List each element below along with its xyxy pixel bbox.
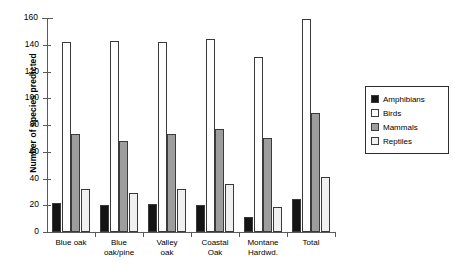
bar (254, 57, 263, 232)
legend-item[interactable]: Reptiles (371, 134, 444, 148)
x-axis-tick (239, 232, 240, 237)
bar-group (239, 18, 287, 232)
legend-item-label: Reptiles (383, 137, 412, 146)
bar (302, 19, 311, 232)
legend-item[interactable]: Amphibians (371, 92, 444, 106)
bar-group (95, 18, 143, 232)
y-axis-tick: 0 (43, 232, 51, 233)
bar (52, 203, 61, 232)
legend-item-label: Birds (383, 109, 401, 118)
bar-group (191, 18, 239, 232)
y-axis-tick-label: 20 (30, 199, 39, 209)
x-axis-label-line: Hardwd. (231, 248, 295, 258)
bar (148, 204, 157, 232)
bar-chart: Number of species predicted 020406080100… (0, 0, 455, 276)
x-axis-labels: Blue oakBlueoak/pineValleyoakCoastalOakM… (47, 238, 335, 274)
legend-swatch-icon (371, 123, 379, 131)
y-axis-tick-label: 0 (34, 226, 39, 236)
x-axis-tick (95, 232, 96, 237)
legend-swatch-icon (371, 95, 379, 103)
y-axis-tick-label: 80 (30, 119, 39, 129)
bar (158, 42, 167, 232)
bar-group (47, 18, 95, 232)
x-axis-label: Total (279, 238, 343, 248)
bar (110, 41, 119, 232)
bar (311, 113, 320, 232)
bar (244, 217, 253, 232)
x-axis-label-line: Total (279, 238, 343, 248)
y-axis-tick-label: 140 (25, 39, 39, 49)
legend-item-label: Mammals (383, 123, 418, 132)
y-axis-tick-label: 60 (30, 146, 39, 156)
x-axis-tick (143, 232, 144, 237)
bar (81, 189, 90, 232)
bar (100, 205, 109, 232)
x-axis-tick (287, 232, 288, 237)
bar (119, 141, 128, 232)
legend-swatch-icon (371, 109, 379, 117)
bar (292, 199, 301, 232)
bar (196, 205, 205, 232)
x-axis-tick (191, 232, 192, 237)
bar-group (287, 18, 335, 232)
bar (321, 177, 330, 232)
legend-swatch-icon (371, 137, 379, 145)
y-axis-tick-label: 120 (25, 66, 39, 76)
plot-area: 020406080100120140160 (47, 18, 335, 232)
y-axis-tick-label: 40 (30, 173, 39, 183)
bar (167, 134, 176, 232)
x-axis-tick (335, 232, 336, 237)
legend-item[interactable]: Birds (371, 106, 444, 120)
legend-item-label: Amphibians (383, 95, 425, 104)
bar (206, 39, 215, 232)
bar (62, 42, 71, 232)
bar (177, 189, 186, 232)
y-axis-tick-label: 160 (24, 12, 38, 22)
bar (263, 138, 272, 232)
bar (273, 207, 282, 232)
bar (225, 184, 234, 232)
bar (129, 193, 138, 232)
bar-group (143, 18, 191, 232)
legend-item[interactable]: Mammals (371, 120, 444, 134)
y-axis-tick-label: 100 (25, 92, 39, 102)
chart-legend: AmphibiansBirdsMammalsReptiles (365, 86, 449, 154)
bar (215, 129, 224, 232)
bar (71, 134, 80, 232)
